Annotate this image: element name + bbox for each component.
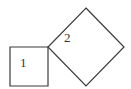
square-1 <box>10 47 48 86</box>
square-2-label: 2 <box>64 30 71 45</box>
square-2-rotated <box>48 8 124 86</box>
diagram-canvas: 1 2 <box>0 0 131 89</box>
square-1-label: 1 <box>20 55 27 70</box>
